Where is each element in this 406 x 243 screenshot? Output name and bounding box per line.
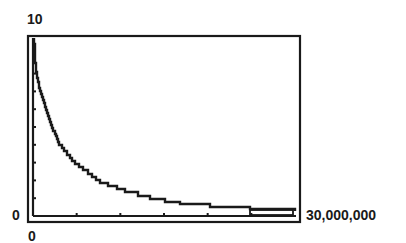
plot-area bbox=[0, 0, 406, 243]
data-curve bbox=[34, 38, 295, 211]
outer-frame bbox=[28, 36, 300, 222]
curve-tail-box bbox=[250, 210, 293, 215]
